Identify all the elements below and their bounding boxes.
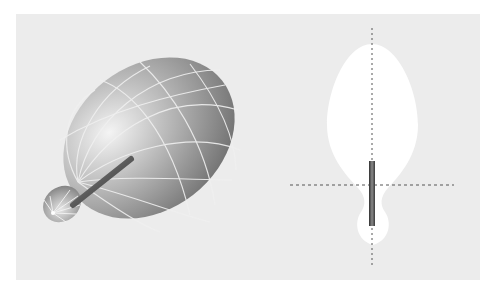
back-lobe-highlight	[51, 211, 55, 215]
antenna-rod-2d	[369, 161, 375, 226]
2d-radiation-pattern	[290, 28, 454, 266]
figure-canvas	[0, 0, 493, 293]
3d-radiation-pattern	[31, 24, 266, 252]
